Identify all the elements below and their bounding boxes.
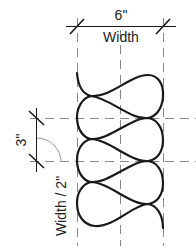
- half-width-label: Width / 2": [53, 176, 69, 236]
- insulation-diagram: 6" Width 3" Width / 2": [0, 0, 196, 248]
- width-label: Width: [103, 29, 139, 45]
- width-value-label: 6": [115, 7, 128, 23]
- half-width-value-label: 3": [13, 134, 29, 147]
- radius-arc: [37, 138, 61, 162]
- half-width-dimension: [29, 108, 61, 172]
